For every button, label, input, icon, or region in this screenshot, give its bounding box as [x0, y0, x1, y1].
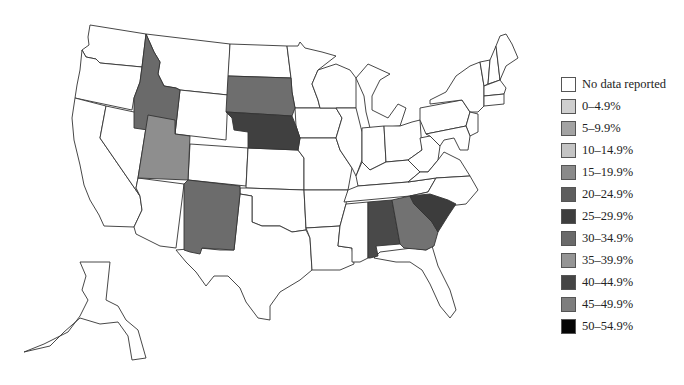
- legend-item: 20–24.9%: [561, 183, 666, 205]
- hawaii-island-4: [227, 309, 233, 313]
- state-wisconsin: [312, 64, 356, 108]
- legend-label: 50–54.9%: [582, 319, 633, 334]
- state-wyoming: [175, 90, 228, 140]
- state-arizona: [134, 178, 184, 248]
- legend-swatch: [561, 77, 576, 92]
- state-hawaii: [265, 335, 275, 349]
- state-north-dakota: [228, 44, 291, 78]
- state-alaska: [24, 262, 146, 360]
- legend-label: 20–24.9%: [582, 187, 633, 202]
- state-colorado: [188, 144, 248, 186]
- legend-swatch: [561, 165, 576, 180]
- state-maine: [496, 34, 518, 80]
- legend-label: 45–49.9%: [582, 297, 633, 312]
- hawaii-island-3: [241, 316, 247, 320]
- legend-swatch: [561, 231, 576, 246]
- legend-item: 45–49.9%: [561, 293, 666, 315]
- legend-item: 50–54.9%: [561, 315, 666, 337]
- legend-label: 0–4.9%: [582, 99, 621, 114]
- state-michigan: [356, 64, 406, 128]
- legend-swatch: [561, 209, 576, 224]
- hawaii-island-2: [252, 324, 260, 328]
- legend-item: No data reported: [561, 73, 666, 95]
- legend-label: 30–34.9%: [582, 231, 633, 246]
- state-florida: [374, 246, 456, 318]
- state-south-dakota: [226, 76, 295, 116]
- legend-swatch: [561, 121, 576, 136]
- legend-item: 30–34.9%: [561, 227, 666, 249]
- state-kansas: [246, 148, 304, 190]
- legend-item: 25–29.9%: [561, 205, 666, 227]
- map-legend: No data reported 0–4.9% 5–9.9% 10–14.9% …: [561, 73, 666, 337]
- legend-item: 10–14.9%: [561, 139, 666, 161]
- legend-label: No data reported: [582, 77, 666, 92]
- state-iowa: [295, 108, 342, 138]
- legend-label: 15–19.9%: [582, 165, 633, 180]
- legend-swatch: [561, 143, 576, 158]
- legend-swatch: [561, 319, 576, 334]
- legend-label: 25–29.9%: [582, 209, 633, 224]
- legend-item: 5–9.9%: [561, 117, 666, 139]
- state-connecticut: [484, 94, 504, 106]
- legend-swatch: [561, 275, 576, 290]
- legend-swatch: [561, 187, 576, 202]
- legend-item: 35–39.9%: [561, 249, 666, 271]
- state-new-mexico: [184, 180, 240, 254]
- legend-label: 35–39.9%: [582, 253, 633, 268]
- legend-item: 0–4.9%: [561, 95, 666, 117]
- legend-swatch: [561, 253, 576, 268]
- legend-label: 5–9.9%: [582, 121, 621, 136]
- state-nebraska: [226, 112, 300, 150]
- legend-swatch: [561, 99, 576, 114]
- legend-swatch: [561, 297, 576, 312]
- legend-item: 15–19.9%: [561, 161, 666, 183]
- legend-label: 10–14.9%: [582, 143, 633, 158]
- legend-label: 40–44.9%: [582, 275, 633, 290]
- legend-item: 40–44.9%: [561, 271, 666, 293]
